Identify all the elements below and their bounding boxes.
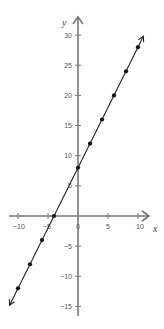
- data-point: [88, 142, 92, 146]
- data-point: [112, 93, 116, 97]
- data-point: [76, 166, 80, 170]
- x-tick-label: 0: [76, 223, 80, 230]
- data-series: [9, 36, 143, 305]
- data-point: [136, 45, 140, 49]
- data-point: [28, 262, 32, 266]
- data-point: [100, 117, 104, 121]
- y-tick-label: 15: [64, 122, 72, 129]
- y-tick-label: 30: [64, 32, 72, 39]
- x-tick-label: 5: [106, 223, 110, 230]
- line-chart: −10−50510−15−10−551015202530 x y: [0, 0, 164, 329]
- x-tick-label: 10: [136, 223, 144, 230]
- y-tick-label: 25: [64, 62, 72, 69]
- y-tick-label: 10: [64, 152, 72, 159]
- y-tick-label: −15: [60, 303, 72, 310]
- data-point: [124, 69, 128, 73]
- data-point: [16, 286, 20, 290]
- y-tick-label: −10: [60, 273, 72, 280]
- data-point: [40, 238, 44, 242]
- data-point: [52, 214, 56, 218]
- y-tick-label: 20: [64, 92, 72, 99]
- y-axis-label: y: [61, 17, 67, 28]
- x-tick-label: −10: [13, 223, 25, 230]
- y-tick-label: −5: [64, 243, 72, 250]
- x-axis-label: x: [152, 223, 158, 234]
